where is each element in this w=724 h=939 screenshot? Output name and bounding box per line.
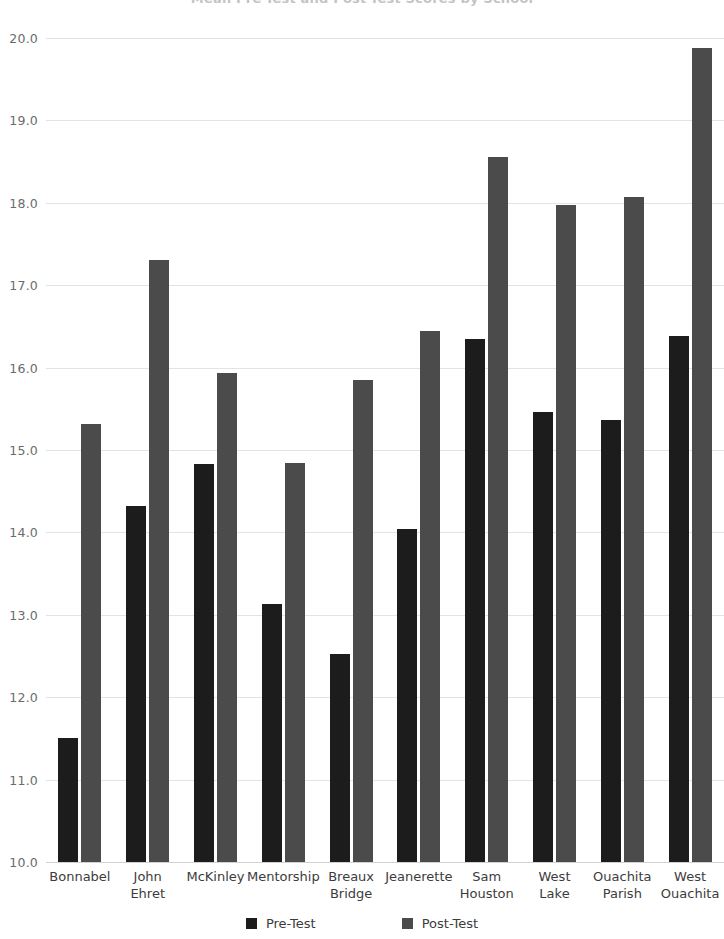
bar-pre-test: [397, 529, 417, 862]
bar-post-test: [624, 197, 644, 862]
bar-post-test: [81, 424, 101, 862]
bar-chart: Mean Pre-Test and Post-Test Scores by Sc…: [0, 0, 724, 939]
bar-pre-test: [126, 506, 146, 862]
bar-post-test: [285, 463, 305, 862]
legend-label: Pre-Test: [266, 916, 316, 931]
x-axis-label-line: Ehret: [104, 885, 192, 902]
plot-area: [46, 38, 724, 862]
bar-pre-test: [194, 464, 214, 862]
y-axis-tick-label: 12.0: [0, 690, 38, 705]
y-axis-tick-label: 15.0: [0, 443, 38, 458]
y-axis-tick-label: 19.0: [0, 113, 38, 128]
x-axis-label-line: Ouachita: [646, 885, 724, 902]
gridline: [46, 368, 724, 369]
x-axis-label-line: Bridge: [307, 885, 395, 902]
y-axis-tick-label: 11.0: [0, 772, 38, 787]
bar-pre-test: [330, 654, 350, 862]
bar-pre-test: [669, 336, 689, 862]
legend-swatch-icon: [246, 918, 257, 929]
y-axis-tick-label: 10.0: [0, 855, 38, 870]
bar-pre-test: [601, 420, 621, 862]
y-axis-tick-label: 20.0: [0, 31, 38, 46]
gridline: [46, 780, 724, 781]
bar-post-test: [692, 48, 712, 862]
y-axis-tick-label: 13.0: [0, 607, 38, 622]
x-axis-label: WestOuachita: [646, 868, 724, 902]
chart-legend: Pre-TestPost-Test: [0, 916, 724, 931]
gridline: [46, 203, 724, 204]
gridline: [46, 450, 724, 451]
bar-post-test: [420, 331, 440, 862]
bar-pre-test: [533, 412, 553, 862]
y-axis-tick-label: 14.0: [0, 525, 38, 540]
gridline: [46, 697, 724, 698]
bar-post-test: [488, 157, 508, 862]
bar-pre-test: [58, 738, 78, 862]
chart-title: Mean Pre-Test and Post-Test Scores by Sc…: [0, 0, 724, 6]
gridline: [46, 38, 724, 39]
gridline: [46, 120, 724, 121]
y-axis-tick-label: 17.0: [0, 278, 38, 293]
gridline: [46, 285, 724, 286]
bar-post-test: [149, 260, 169, 862]
legend-item[interactable]: Pre-Test: [246, 916, 316, 931]
y-axis-tick-label: 18.0: [0, 195, 38, 210]
gridline: [46, 532, 724, 533]
y-axis-tick-label: 16.0: [0, 360, 38, 375]
gridline: [46, 615, 724, 616]
bar-post-test: [217, 373, 237, 862]
bar-post-test: [353, 380, 373, 862]
bar-post-test: [556, 205, 576, 862]
legend-swatch-icon: [402, 918, 413, 929]
legend-label: Post-Test: [422, 916, 478, 931]
legend-item[interactable]: Post-Test: [402, 916, 478, 931]
bar-pre-test: [465, 339, 485, 862]
x-axis-label-line: West: [646, 868, 724, 885]
gridline: [46, 862, 724, 863]
bar-pre-test: [262, 604, 282, 862]
